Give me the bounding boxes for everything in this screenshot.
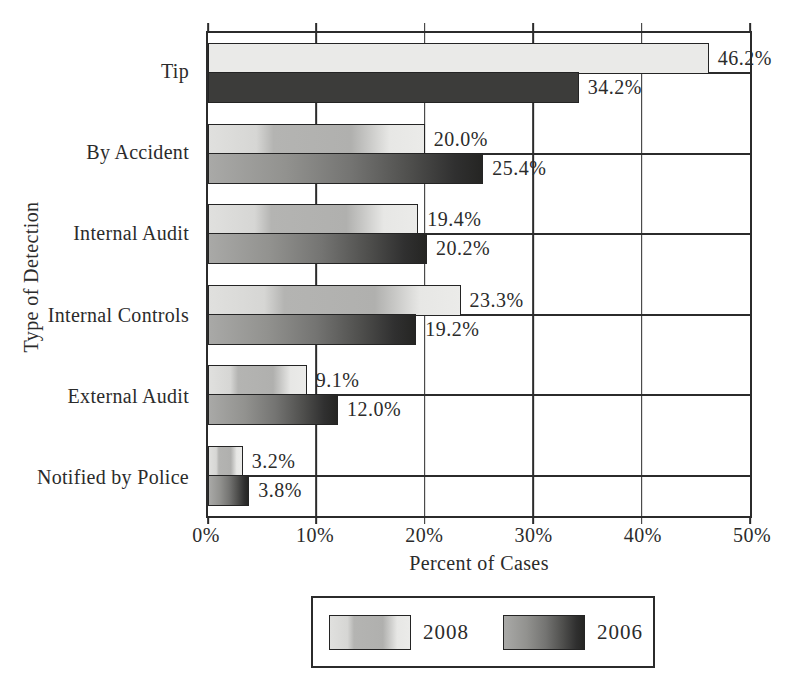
bar-2008-1 bbox=[208, 124, 425, 155]
bar-2008-4 bbox=[208, 365, 307, 396]
bar-2008-3 bbox=[208, 285, 461, 316]
value-label-2008-1: 20.0% bbox=[434, 124, 488, 155]
axis-tick-top-50% bbox=[749, 23, 751, 33]
category-band-0: 46.2%34.2% bbox=[208, 33, 750, 114]
value-label-2006-5: 3.8% bbox=[258, 475, 302, 506]
value-label-2006-1: 25.4% bbox=[492, 153, 546, 184]
category-label-4: External Audit bbox=[0, 356, 198, 437]
legend-swatch-2006 bbox=[503, 615, 585, 650]
category-band-4: 9.1%12.0% bbox=[208, 355, 750, 436]
bar-2008-5 bbox=[208, 446, 243, 477]
x-tick-label-10%: 10% bbox=[296, 524, 334, 547]
category-label-1: By Accident bbox=[0, 112, 198, 193]
value-label-2008-2: 19.4% bbox=[427, 204, 481, 235]
category-label-0: Tip bbox=[0, 31, 198, 112]
category-label-5: Notified by Police bbox=[0, 437, 198, 518]
axis-tick-bottom-10% bbox=[316, 516, 318, 524]
figure: Type of Detection TipBy AccidentInternal… bbox=[0, 0, 804, 690]
bar-2006-2 bbox=[208, 233, 427, 264]
bar-2008-2 bbox=[208, 204, 418, 235]
bar-2006-5 bbox=[208, 475, 249, 506]
legend-swatch-2008 bbox=[329, 615, 411, 650]
axis-tick-top-30% bbox=[532, 23, 534, 33]
axis-tick-top-0% bbox=[207, 23, 209, 33]
value-label-2008-5: 3.2% bbox=[252, 446, 296, 477]
bar-2008-0 bbox=[208, 43, 709, 74]
legend-entry-2006: 2006 bbox=[503, 615, 643, 650]
axis-tick-top-10% bbox=[316, 23, 318, 33]
bar-2006-3 bbox=[208, 314, 416, 345]
x-tick-label-30%: 30% bbox=[515, 524, 553, 547]
value-label-2006-3: 19.2% bbox=[425, 314, 479, 345]
legend: 2008 2006 bbox=[311, 596, 655, 668]
value-label-2006-4: 12.0% bbox=[347, 394, 401, 425]
value-label-2006-2: 20.2% bbox=[436, 233, 490, 264]
x-tick-label-20%: 20% bbox=[405, 524, 443, 547]
value-label-2008-3: 23.3% bbox=[470, 285, 524, 316]
legend-entry-2008: 2008 bbox=[329, 615, 469, 650]
axis-tick-bottom-50% bbox=[749, 516, 751, 524]
axis-tick-bottom-40% bbox=[641, 516, 643, 524]
bar-2006-0 bbox=[208, 72, 579, 103]
category-label-3: Internal Controls bbox=[0, 274, 198, 355]
x-tick-label-40%: 40% bbox=[624, 524, 662, 547]
x-tick-label-50%: 50% bbox=[733, 524, 771, 547]
category-labels: TipBy AccidentInternal AuditInternal Con… bbox=[0, 31, 198, 518]
x-tick-label-0%: 0% bbox=[192, 524, 220, 547]
axis-tick-top-40% bbox=[641, 23, 643, 33]
plot-area: 46.2%34.2%20.0%25.4%19.4%20.2%23.3%19.2%… bbox=[206, 31, 752, 518]
axis-tick-top-20% bbox=[424, 23, 426, 33]
value-label-2008-4: 9.1% bbox=[316, 365, 360, 396]
bar-2006-4 bbox=[208, 394, 338, 425]
x-axis-title: Percent of Cases bbox=[206, 552, 752, 575]
value-label-2008-0: 46.2% bbox=[718, 43, 772, 74]
value-label-2006-0: 34.2% bbox=[588, 72, 642, 103]
x-tick-labels: 0%10%20%30%40%50% bbox=[206, 524, 752, 550]
legend-label-2008: 2008 bbox=[423, 620, 469, 645]
category-band-3: 23.3%19.2% bbox=[208, 275, 750, 356]
axis-tick-bottom-0% bbox=[207, 516, 209, 524]
category-band-2: 19.4%20.2% bbox=[208, 194, 750, 275]
axis-tick-bottom-30% bbox=[532, 516, 534, 524]
category-band-1: 20.0%25.4% bbox=[208, 114, 750, 195]
category-label-2: Internal Audit bbox=[0, 193, 198, 274]
category-band-5: 3.2%3.8% bbox=[208, 436, 750, 517]
legend-label-2006: 2006 bbox=[597, 620, 643, 645]
axis-tick-bottom-20% bbox=[424, 516, 426, 524]
bar-2006-1 bbox=[208, 153, 483, 184]
